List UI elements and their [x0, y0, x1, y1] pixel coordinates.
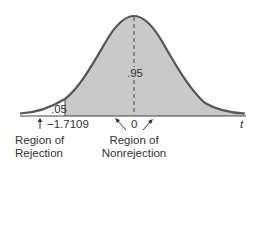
rejection-label-line1: Region of	[15, 134, 64, 147]
rejection-region-label: Region of Rejection	[15, 134, 64, 160]
rejection-label-line2: Rejection	[15, 147, 64, 160]
nonrejection-region-label: Region of Nonrejection	[100, 134, 168, 160]
nonrejection-label-line2: Nonrejection	[100, 147, 168, 160]
t-axis-label: t	[240, 118, 243, 131]
nonrejection-label-line1: Region of	[100, 134, 168, 147]
rejection-area-label: .05	[51, 103, 67, 116]
critical-value-tick: −1.7109	[47, 118, 89, 131]
nonrejection-area-label: .95	[127, 67, 143, 80]
zero-tick: 0	[131, 118, 137, 131]
